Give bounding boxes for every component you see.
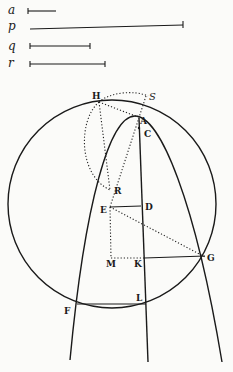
segment-label-r: r <box>8 56 15 70</box>
label-f: F <box>64 306 71 316</box>
axis-line <box>139 118 148 362</box>
dotted-line-em <box>110 207 111 258</box>
label-a: A <box>139 116 148 126</box>
line-ed <box>110 206 141 207</box>
label-e: E <box>100 205 107 215</box>
dotted-line-ha <box>99 102 138 117</box>
dotted-arc-hr <box>84 102 110 190</box>
label-m: M <box>106 259 116 269</box>
segment-label-a: a <box>8 3 15 17</box>
line-kg <box>144 256 205 258</box>
segment-p <box>30 25 183 29</box>
segment-label-p: p <box>8 19 16 33</box>
label-g: G <box>207 253 215 263</box>
dotted-line-hr <box>99 102 110 190</box>
dotted-line-eg <box>110 207 205 257</box>
label-l: L <box>136 293 143 303</box>
label-k: K <box>134 259 143 269</box>
label-s: S <box>149 91 156 102</box>
point-c-dot <box>138 127 140 129</box>
label-r: R <box>114 186 122 196</box>
label-d: D <box>145 202 153 212</box>
label-c: C <box>144 129 151 139</box>
main-circle <box>8 100 216 308</box>
label-h: H <box>92 91 101 101</box>
geometry-diagram: a p q r H S A C R E <box>0 0 233 372</box>
segment-label-q: q <box>8 39 16 53</box>
reference-segments: a p q r <box>8 3 183 70</box>
